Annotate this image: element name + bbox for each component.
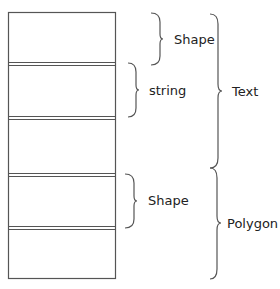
label-text: Text <box>232 85 258 98</box>
brace-shape-top <box>151 13 163 65</box>
brace-polygon <box>210 168 221 279</box>
label-string: string <box>149 84 186 97</box>
brace-string <box>128 63 139 117</box>
label-shape-top: Shape <box>174 33 215 46</box>
separator-4 <box>8 227 116 230</box>
separator-2 <box>8 117 116 120</box>
diagram-canvas <box>0 0 280 289</box>
label-shape-bottom: Shape <box>148 194 189 207</box>
brace-shape-bottom <box>125 174 137 228</box>
separator-3 <box>8 174 116 177</box>
separator-1 <box>8 63 116 66</box>
object-box <box>9 13 116 279</box>
label-polygon: Polygon <box>227 217 278 230</box>
